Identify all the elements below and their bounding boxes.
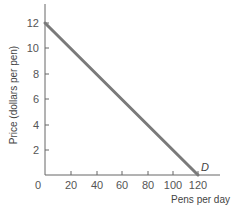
x-tick-label: 60: [116, 179, 128, 191]
y-tick-label: 2: [33, 144, 39, 156]
y-tick-label: 10: [27, 42, 39, 54]
x-ticks: 0 20 40 60 80 100 120: [35, 171, 207, 191]
x-tick-label: 100: [164, 179, 182, 191]
demand-chart: 2 4 6 8 10 12 0 20 40 60 80 100 120 Pric…: [0, 0, 236, 205]
y-tick-label: 12: [27, 17, 39, 29]
y-tick-label: 8: [33, 68, 39, 80]
demand-curve: [45, 23, 198, 175]
y-axis-label: Price (dollars per pen): [8, 46, 19, 144]
x-tick-label: 80: [142, 179, 154, 191]
x-tick-label: 120: [189, 179, 207, 191]
y-tick-label: 6: [33, 93, 39, 105]
x-tick-label: 20: [65, 179, 77, 191]
y-ticks: 2 4 6 8 10 12: [27, 17, 49, 156]
demand-curve-label: D: [201, 161, 209, 173]
y-tick-label: 4: [33, 119, 39, 131]
x-tick-label: 40: [91, 179, 103, 191]
x-axis-label: Pens per day: [171, 194, 230, 205]
origin-label: 0: [35, 179, 41, 191]
